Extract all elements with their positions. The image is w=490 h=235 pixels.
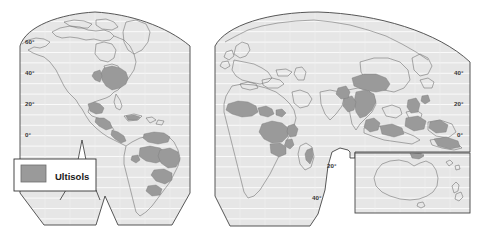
lat-label-20n-right: 20° xyxy=(454,100,464,107)
lat-label-40n-left: 40° xyxy=(25,69,35,76)
lat-label-60n-left: 60° xyxy=(25,38,35,45)
panel-australia-inset xyxy=(355,152,470,213)
legend-swatch-ultisols xyxy=(21,165,46,182)
lat-label-0-right: 0° xyxy=(457,131,463,138)
lat-label-40s-right: 40° xyxy=(312,194,322,201)
left-panel-background xyxy=(0,0,210,235)
ultisols-world-map-figure: 60° 40° 20° 0° 40° 20° 0° 20° 40° Ultiso… xyxy=(0,0,490,235)
panel-western-hemisphere xyxy=(0,0,210,235)
lat-label-20s-right: 20° xyxy=(327,162,337,169)
lat-label-0-left: 0° xyxy=(25,131,31,138)
inset-background xyxy=(355,153,470,213)
lat-label-40n-right: 40° xyxy=(454,69,464,76)
legend-label-ultisols: Ultisols xyxy=(55,171,89,182)
world-map-svg: 60° 40° 20° 0° 40° 20° 0° 20° 40° Ultiso… xyxy=(0,0,490,235)
lat-label-20n-left: 20° xyxy=(25,100,35,107)
